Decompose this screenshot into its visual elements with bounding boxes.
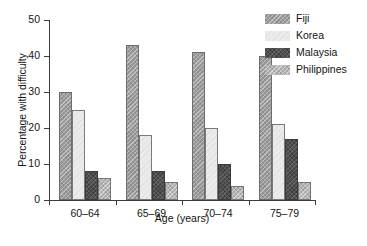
- y-axis-tick-label: 10: [28, 157, 40, 169]
- legend-label: Philippines: [296, 64, 347, 75]
- y-axis-tick-label: 30: [28, 85, 40, 97]
- bar-malaysia-3: [285, 139, 298, 200]
- bar-korea-2: [205, 128, 218, 200]
- bar-philippines-1: [165, 182, 178, 200]
- bar-group: [192, 20, 244, 200]
- y-axis-tick-label: 50: [28, 13, 40, 25]
- x-axis-tick: [49, 201, 50, 205]
- legend-swatch-fiji-icon: [265, 14, 290, 24]
- legend-item-korea[interactable]: Korea: [265, 27, 367, 44]
- x-axis-tick: [182, 201, 183, 205]
- y-axis-tick: 40: [44, 56, 49, 57]
- bar-fiji-2: [192, 52, 205, 200]
- y-axis-tick: 20: [44, 128, 49, 129]
- bar-fiji-1: [126, 45, 139, 200]
- legend-label: Korea: [296, 30, 324, 41]
- bar-philippines-2: [231, 186, 244, 200]
- bar-group: [126, 20, 178, 200]
- y-axis-line: [49, 20, 50, 201]
- legend-item-malaysia[interactable]: Malaysia: [265, 44, 367, 61]
- bar-korea-1: [139, 135, 152, 200]
- y-axis-tick-label: 20: [28, 121, 40, 133]
- bar-malaysia-1: [152, 171, 165, 200]
- y-axis-tick-label: 0: [34, 193, 40, 205]
- bar-korea-0: [72, 110, 85, 200]
- legend-swatch-philippines-icon: [265, 65, 290, 75]
- bar-group: [59, 20, 111, 200]
- bar-philippines-0: [98, 178, 111, 200]
- x-axis-tick: [249, 201, 250, 205]
- legend-item-philippines[interactable]: Philippines: [265, 61, 367, 78]
- y-axis-tick: 10: [44, 164, 49, 165]
- y-axis-tick: 50: [44, 20, 49, 21]
- x-axis-tick: [315, 201, 316, 205]
- legend-label: Malaysia: [296, 47, 337, 58]
- bar-korea-3: [272, 124, 285, 200]
- bar-philippines-3: [298, 182, 311, 200]
- chart-legend: FijiKoreaMalaysiaPhilippines: [265, 10, 367, 78]
- y-axis-title: Percentage with difficulty: [16, 25, 28, 195]
- legend-swatch-malaysia-icon: [265, 48, 290, 58]
- y-axis-tick: 30: [44, 92, 49, 93]
- legend-item-fiji[interactable]: Fiji: [265, 10, 367, 27]
- bar-chart-figure: Percentage with difficulty 01020304050 6…: [0, 0, 367, 246]
- x-axis-tick: [116, 201, 117, 205]
- bar-fiji-0: [59, 92, 72, 200]
- bar-malaysia-2: [218, 164, 231, 200]
- bar-malaysia-0: [85, 171, 98, 200]
- y-axis-tick-label: 40: [28, 49, 40, 61]
- legend-label: Fiji: [296, 13, 309, 24]
- legend-swatch-korea-icon: [265, 31, 290, 41]
- x-axis-title: Age (years): [49, 212, 315, 224]
